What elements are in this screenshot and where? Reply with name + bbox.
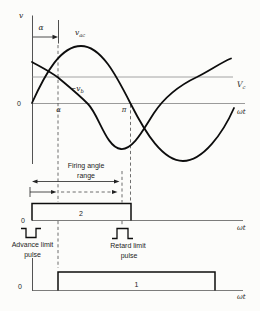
firing-angle-range-label-line1: Firing angle [68,162,105,170]
pulse1-label: 1 [135,281,139,288]
pulse2-xaxis-label: ωt [237,224,246,232]
vb-label: −vb [70,84,84,94]
top-xaxis-label: ωt [237,108,246,116]
advance-limit-label-line1: Advance limit [12,241,54,248]
retard-limit-label-line2: pulse [121,252,138,260]
variable-arrowhead-alpha-icon [51,190,57,194]
pulse1-xaxis-label: ωt [237,293,246,301]
pulse1-origin-label: 0 [18,283,22,290]
advance-limit-pulse-icon [21,229,41,238]
range-arrowhead-left-icon [32,179,38,183]
variable-arrowhead-retard-icon [112,190,118,194]
pi-tick-label: π [121,106,127,114]
figure-svg: v α vac −vb Vc 0 α π ωt Firing angle ran… [0,0,260,311]
top-origin-label: 0 [17,100,21,107]
vc-label: Vc [237,80,245,90]
alpha-tick-label: α [56,106,61,114]
waveform-figure: v α vac −vb Vc 0 α π ωt Firing angle ran… [0,0,260,311]
firing-angle-range-label-line2: range [77,172,95,180]
alpha-dim-label: α [38,23,43,32]
v-axis-label: v [19,11,24,20]
retard-limit-pulse-icon [112,229,133,239]
range-arrowhead-right-icon [114,179,120,183]
alpha-dim-arrowhead-icon [53,35,59,39]
pulse2-origin-label: 0 [21,217,25,224]
retard-limit-label-line1: Retard limit [110,242,145,249]
pulse2-label: 2 [79,210,83,217]
vac-label: vac [75,28,85,38]
advance-limit-label-line2: pulse [24,251,41,259]
